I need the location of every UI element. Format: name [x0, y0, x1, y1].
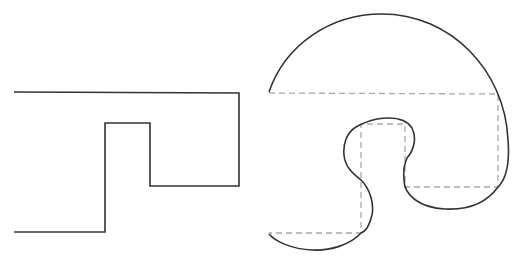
- rectilinear-path: [14, 92, 239, 232]
- diagram-svg: [0, 0, 522, 264]
- dashed-guide-path: [269, 93, 498, 233]
- diagram-canvas: [0, 0, 522, 264]
- smoothed-curve-path: [269, 14, 508, 250]
